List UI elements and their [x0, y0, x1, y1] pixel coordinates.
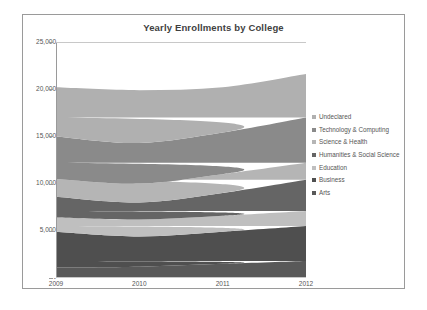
- y-tick-mark: [49, 184, 53, 185]
- chart-frame: Yearly Enrollments by College 25,00020,0…: [22, 14, 405, 289]
- legend-swatch-icon: [312, 166, 316, 170]
- legend-swatch-icon: [312, 115, 316, 119]
- y-tick-mark: [49, 136, 53, 137]
- legend-item-label: Education: [319, 165, 347, 171]
- x-tick-label: 2009: [49, 281, 63, 288]
- legend-item[interactable]: Education: [312, 161, 408, 174]
- legend-item[interactable]: Undeclared: [312, 111, 408, 124]
- legend-swatch-icon: [312, 140, 316, 144]
- y-axis: 25,00020,00015,00010,0005,000-: [18, 42, 56, 278]
- legend-item-label: Arts: [319, 190, 330, 196]
- legend-item-label: Undeclared: [319, 114, 351, 120]
- legend-item[interactable]: Arts: [312, 187, 408, 200]
- x-tick-label: 2010: [132, 281, 146, 288]
- y-tick-mark: [49, 231, 53, 232]
- legend-swatch-icon: [312, 153, 316, 157]
- y-tick-mark: [49, 42, 53, 43]
- chart-legend: UndeclaredTechnology & ComputingScience …: [312, 111, 408, 199]
- legend-item-label: Science & Health: [319, 139, 367, 145]
- legend-swatch-icon: [312, 178, 316, 182]
- legend-item-label: Technology & Computing: [319, 127, 389, 133]
- stacked-area-plot: [56, 42, 306, 278]
- legend-item[interactable]: Humanities & Social Science: [312, 149, 408, 162]
- x-axis: 2009201020112012: [56, 281, 306, 293]
- plot-area: [56, 42, 306, 278]
- legend-swatch-icon: [312, 191, 316, 195]
- y-tick-mark: [49, 89, 53, 90]
- legend-item-label: Humanities & Social Science: [319, 152, 400, 158]
- y-tick-mark: [49, 278, 53, 279]
- legend-item[interactable]: Science & Health: [312, 136, 408, 149]
- legend-item[interactable]: Business: [312, 174, 408, 187]
- legend-item[interactable]: Technology & Computing: [312, 124, 408, 137]
- legend-item-label: Business: [319, 177, 345, 183]
- chart-title: Yearly Enrollments by College: [23, 22, 404, 33]
- x-tick-label: 2012: [299, 281, 313, 288]
- x-tick-label: 2011: [216, 281, 230, 288]
- legend-swatch-icon: [312, 128, 316, 132]
